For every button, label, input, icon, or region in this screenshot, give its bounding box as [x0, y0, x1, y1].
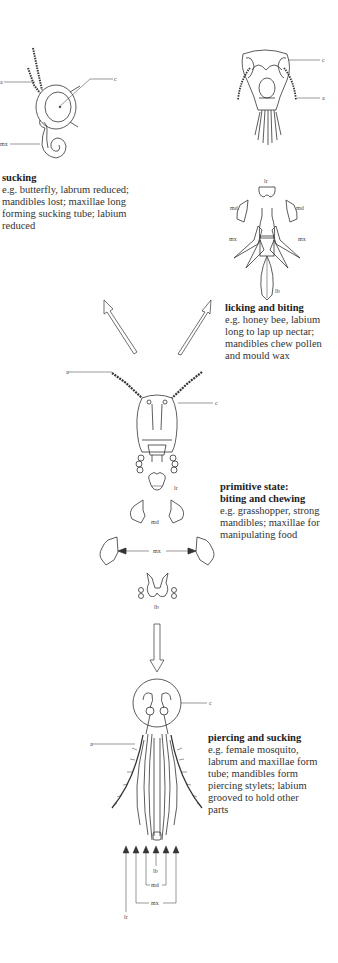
caption-piercing-title: piercing and sucking — [208, 732, 320, 744]
label-compound-eye-butterfly: c — [114, 76, 117, 83]
label-antenna-grasshopper: a — [66, 369, 69, 376]
caption-primitive: primitive state: biting and chewing e.g.… — [220, 481, 338, 541]
label-compound-eye-bee: c — [322, 57, 325, 64]
arrow-to-licking — [178, 300, 211, 355]
label-mandibles-mosquito: md — [151, 882, 159, 889]
caption-sucking-body: e.g. butterfly, labrum reduced; mandible… — [2, 184, 142, 232]
label-maxillae-mosquito: mx — [151, 900, 159, 907]
arrow-to-sucking — [104, 300, 137, 354]
label-maxillae-butterfly: mx — [0, 141, 8, 148]
caption-sucking-title: sucking — [2, 172, 142, 184]
caption-licking-body: e.g. honey bee, labium long to lap up ne… — [225, 314, 337, 362]
caption-primitive-title-line2: biting and chewing — [220, 493, 338, 505]
label-labium-mosquito: lb — [153, 868, 158, 875]
label-maxilla-left-bee: mx — [229, 236, 237, 243]
label-labrum-grasshopper: lr — [174, 485, 178, 492]
arrow-to-piercing — [150, 624, 164, 672]
label-mandibles-grasshopper: md — [151, 519, 159, 526]
caption-piercing-body: e.g. female mosquito, labrum and maxilla… — [208, 744, 320, 816]
label-labrum-bee: lr — [264, 178, 268, 185]
label-labium-bee: lb — [275, 288, 280, 295]
grasshopper-mouthparts-exploded — [100, 473, 214, 599]
label-compound-eye-mosquito: c — [209, 700, 212, 707]
label-antenna-mosquito: a — [90, 741, 93, 748]
label-maxillae-grasshopper: mx — [153, 548, 161, 555]
label-antenna-bee: a — [322, 95, 325, 102]
butterfly-head-illustration — [4, 48, 113, 158]
label-compound-eye-grasshopper: c — [215, 400, 218, 407]
label-labrum-mosquito: lr — [124, 914, 128, 921]
label-mandible-left-bee: md — [230, 205, 238, 212]
label-antenna-butterfly: a — [0, 79, 3, 86]
caption-piercing: piercing and sucking e.g. female mosquit… — [208, 732, 320, 816]
caption-sucking: sucking e.g. butterfly, labrum reduced; … — [2, 172, 142, 232]
bee-head-illustration — [238, 50, 320, 145]
caption-primitive-body: e.g. grasshopper, strong mandibles; maxi… — [220, 505, 338, 541]
caption-licking-title: licking and biting — [225, 302, 337, 314]
label-mandible-right-bee: md — [296, 205, 304, 212]
grasshopper-head-illustration — [68, 372, 213, 473]
bee-mouthparts-exploded — [234, 187, 300, 300]
mosquito-head-illustration — [92, 679, 207, 840]
caption-primitive-title-line1: primitive state: — [220, 481, 338, 493]
label-maxilla-right-bee: mx — [298, 236, 306, 243]
label-labium-grasshopper: lb — [154, 604, 159, 611]
caption-licking: licking and biting e.g. honey bee, labiu… — [225, 302, 337, 362]
